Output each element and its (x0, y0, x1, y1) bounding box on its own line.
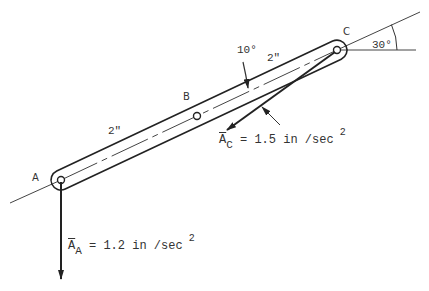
acc-value-C: = 1.5 in /sec (240, 133, 334, 147)
acc-exponent-A: 2 (189, 233, 195, 244)
angle-label-30: 30° (372, 40, 392, 51)
acceleration-label-C: AC = 1.5 in /sec2 (219, 134, 346, 146)
angle-leader-10 (243, 62, 248, 88)
center-line (10, 12, 420, 203)
acc-value-A: = 1.2 in /sec (89, 239, 183, 253)
acc-subscript-C: C (226, 139, 233, 151)
point-label-C: C (343, 27, 350, 37)
acc-exponent-C: 2 (340, 127, 346, 138)
angle-label-10: 10° (237, 45, 257, 56)
angle-arc-30 (391, 25, 397, 50)
leader-line-C (262, 107, 280, 125)
pin-B (194, 113, 201, 120)
point-label-A: A (32, 173, 39, 183)
acceleration-label-A: AA = 1.2 in /sec2 (68, 240, 195, 252)
acc-subscript-A: A (75, 245, 82, 257)
point-label-B: B (183, 92, 190, 102)
dimension-AB: 2" (108, 126, 121, 137)
link-diagram (0, 0, 429, 291)
dimension-BC: 2" (267, 53, 280, 64)
